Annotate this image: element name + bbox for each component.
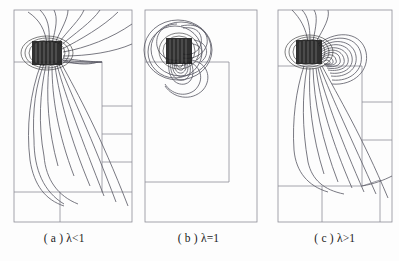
captions-row: ( a ) λ<1 ( b ) λ=1 ( c ) λ>1 [0,229,399,259]
panel-a-plot [0,0,140,232]
panel-b-plot [133,0,268,232]
panel-a-lambda-less-than-one [0,0,140,232]
panel-a-mesh [14,10,132,222]
figure-container: ( a ) λ<1 ( b ) λ=1 ( c ) λ>1 [0,0,399,261]
caption-a-text: ( a ) λ<1 [44,232,85,244]
caption-panel-b: ( b ) λ=1 [134,229,264,259]
panel-a-source-block [21,36,73,70]
caption-b-text: ( b ) λ=1 [178,232,220,244]
panel-c-plot [262,0,399,232]
panel-a-field-lines [28,10,132,206]
panel-b-source-block [159,33,199,69]
panel-c-lambda-greater-than-one [262,0,399,232]
panel-c-field-lines [292,10,392,198]
panels-row [0,0,399,232]
caption-panel-c: ( c ) λ>1 [265,229,399,259]
caption-panel-a: ( a ) λ<1 [0,229,134,259]
panel-b-lambda-equals-one [133,0,268,232]
caption-c-text: ( c ) λ>1 [314,232,355,244]
